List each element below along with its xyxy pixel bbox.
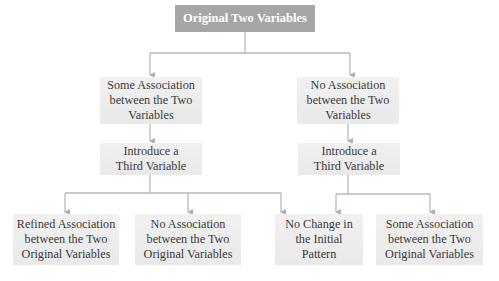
node-label: No Association between the Two Original … bbox=[144, 217, 233, 262]
node-label: No Change in the Initial Pattern bbox=[285, 217, 353, 262]
node-label: Some Association between the Two Origina… bbox=[385, 217, 474, 262]
node-label: Introduce a Third Variable bbox=[116, 144, 187, 174]
node-some-association-original: Some Association between the Two Origina… bbox=[376, 214, 483, 265]
node-label: Introduce a Third Variable bbox=[314, 144, 385, 174]
node-label: Original Two Variables bbox=[183, 11, 307, 26]
node-introduce-third-variable-right: Introduce a Third Variable bbox=[298, 143, 400, 175]
node-label: Refined Association between the Two Orig… bbox=[17, 217, 116, 262]
node-some-association: Some Association between the Two Variabl… bbox=[100, 77, 202, 124]
node-no-association: No Association between the Two Variables bbox=[297, 77, 399, 124]
node-label: Some Association between the Two Variabl… bbox=[107, 78, 195, 123]
node-label: No Association between the Two Variables bbox=[307, 78, 390, 123]
node-refined-association: Refined Association between the Two Orig… bbox=[13, 214, 119, 265]
node-original-two-variables: Original Two Variables bbox=[175, 5, 315, 32]
node-no-association-original: No Association between the Two Original … bbox=[135, 214, 241, 265]
node-no-change-initial-pattern: No Change in the Initial Pattern bbox=[275, 214, 363, 265]
node-introduce-third-variable-left: Introduce a Third Variable bbox=[100, 143, 202, 175]
